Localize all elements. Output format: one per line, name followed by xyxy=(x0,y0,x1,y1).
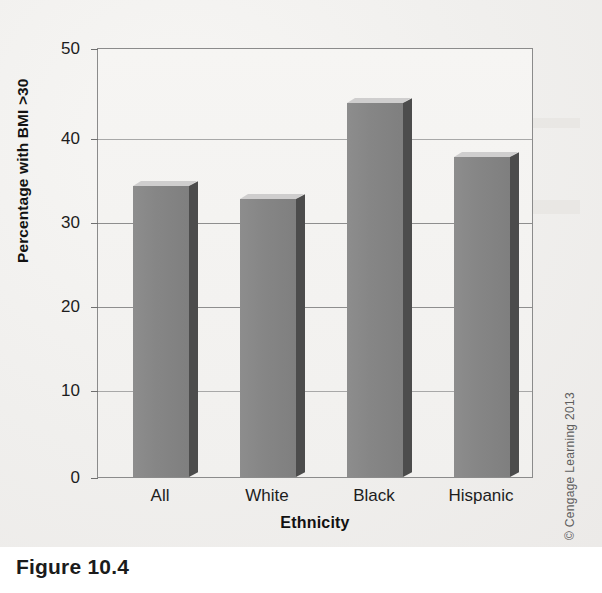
bar-chart: Percentage with BMI >30 50 40 30 20 10 xyxy=(0,0,602,547)
gridline-40 xyxy=(98,139,532,140)
bar-side-face xyxy=(510,152,519,477)
y-tick-10: 10 xyxy=(91,391,98,392)
figure-page: Percentage with BMI >30 50 40 30 20 10 xyxy=(0,0,602,593)
bar-front-face xyxy=(454,157,510,477)
bar-black xyxy=(347,103,403,477)
bar-side-face xyxy=(403,98,412,477)
y-tick-label-50: 50 xyxy=(61,39,80,59)
figure-caption: Figure 10.4 xyxy=(16,555,129,579)
x-tick-label-hispanic: Hispanic xyxy=(448,486,513,506)
bar-all xyxy=(133,186,189,477)
bar-side-face xyxy=(189,181,198,477)
plot-area: 50 40 30 20 10 0 xyxy=(97,48,533,478)
y-tick-50: 50 xyxy=(91,49,98,50)
bar-side-face xyxy=(296,194,305,477)
y-tick-30: 30 xyxy=(91,223,98,224)
x-tick-label-white: White xyxy=(245,486,288,506)
copyright-notice: © Cengage Learning 2013 xyxy=(563,392,577,540)
y-tick-40: 40 xyxy=(91,139,98,140)
y-tick-label-40: 40 xyxy=(61,129,80,149)
bar-hispanic xyxy=(454,157,510,477)
bar-front-face xyxy=(347,103,403,477)
x-tick-label-all: All xyxy=(151,486,170,506)
y-tick-label-0: 0 xyxy=(71,468,80,488)
bar-front-face xyxy=(133,186,189,477)
y-tick-20: 20 xyxy=(91,307,98,308)
y-tick-0: 0 xyxy=(91,478,98,479)
x-tick-label-black: Black xyxy=(353,486,395,506)
bar-white xyxy=(240,199,296,477)
x-axis-title: Ethnicity xyxy=(280,514,349,532)
y-tick-label-10: 10 xyxy=(61,381,80,401)
bar-front-face xyxy=(240,199,296,477)
y-tick-label-20: 20 xyxy=(61,297,80,317)
y-axis-title: Percentage with BMI >30 xyxy=(14,79,32,264)
y-tick-label-30: 30 xyxy=(61,213,80,233)
